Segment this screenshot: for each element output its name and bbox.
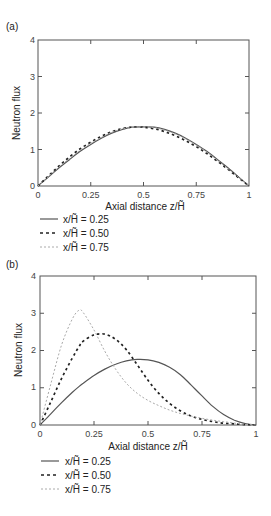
legend-a: x/H̃ = 0.25 x/H̃ = 0.50 x/H̃ = 0.75	[40, 213, 109, 253]
axes-frame	[40, 276, 256, 425]
panel-b: (b) 4 3 2 1 0 Neutron flux 0 0.25 0.5 0.…	[6, 259, 259, 495]
x-tick-label: 0.5	[137, 190, 150, 200]
x-tick-label: 0	[37, 429, 42, 439]
x-tick-label: 0.75	[193, 429, 211, 439]
plot-area-a	[38, 40, 249, 186]
series-line	[40, 334, 256, 425]
series-line	[40, 310, 256, 425]
y-tick-label: 0	[31, 420, 36, 430]
y-tick-label: 4	[30, 35, 35, 45]
y-tick-label: 3	[31, 308, 36, 318]
y-axis-label: Neutron flux	[11, 86, 22, 140]
y-tick-label: 1	[30, 145, 35, 155]
x-tick-label: 0.25	[82, 190, 100, 200]
series-line	[38, 127, 249, 186]
x-tick-label: 0.5	[142, 429, 155, 439]
y-tick-label: 4	[31, 271, 36, 281]
x-tick-label: 0	[35, 190, 40, 200]
x-axis-label: Axial distance z/H̃	[108, 440, 187, 452]
y-tick-label: 3	[30, 72, 35, 82]
series-line	[40, 359, 256, 425]
panel-a-label: (a)	[6, 21, 18, 32]
panel-b-label: (b)	[6, 259, 18, 270]
legend-entry: x/H̃ = 0.25	[63, 213, 109, 225]
legend-b: x/H̃ = 0.25 x/H̃ = 0.50 x/H̃ = 0.75	[41, 455, 111, 495]
y-tick-label: 2	[30, 108, 35, 118]
y-tick-label: 2	[31, 345, 36, 355]
x-tick-label: 1	[253, 429, 258, 439]
plot-area-b	[40, 276, 256, 425]
figure: (a) 4 3 2 1 0 Neutron flux 0 0.25 0.5 0.…	[0, 0, 271, 516]
legend-entry: x/H̃ = 0.75	[65, 483, 111, 495]
axes-frame	[38, 40, 249, 186]
panel-a: (a) 4 3 2 1 0 Neutron flux 0 0.25 0.5 0.…	[6, 21, 252, 253]
series-line	[38, 127, 249, 186]
x-tick-label: 0.25	[85, 429, 103, 439]
y-axis-label: Neutron flux	[13, 323, 24, 377]
legend-entry: x/H̃ = 0.50	[63, 227, 109, 239]
y-tick-label: 1	[31, 382, 36, 392]
x-tick-label: 0.75	[187, 190, 205, 200]
x-axis-label: Axial distance z/H̃	[105, 200, 184, 212]
legend-entry: x/H̃ = 0.50	[65, 469, 111, 481]
series-line	[38, 127, 249, 186]
legend-entry: x/H̃ = 0.75	[63, 241, 109, 253]
y-tick-label: 0	[30, 181, 35, 191]
x-tick-label: 1	[246, 190, 251, 200]
legend-entry: x/H̃ = 0.25	[65, 455, 111, 467]
